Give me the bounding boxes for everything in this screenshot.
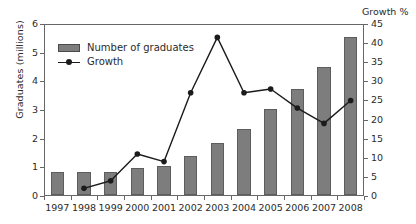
y-axis-right-tick — [364, 81, 368, 82]
y-axis-right-tick-label: 20 — [371, 115, 383, 125]
y-axis-right-tick — [364, 24, 368, 25]
x-axis-tick-label: 2007 — [312, 203, 336, 213]
y-axis-right-tick — [364, 100, 368, 101]
y-axis-left-tick-label: 6 — [32, 19, 38, 29]
y-axis-right-tick-label: 0 — [371, 191, 377, 201]
x-axis-tick-label: 2006 — [285, 203, 309, 213]
growth-data-point — [268, 86, 274, 92]
y-axis-left-tick-label: 2 — [32, 134, 38, 144]
growth-data-point — [295, 105, 301, 111]
y-axis-right-tick — [364, 62, 368, 63]
x-axis-tick — [337, 196, 338, 200]
y-axis-left-tick-label: 4 — [32, 77, 38, 87]
y-axis-right-tick-label: 35 — [371, 57, 383, 67]
growth-data-point — [161, 159, 167, 165]
x-axis-tick — [204, 196, 205, 200]
growth-data-point — [321, 121, 327, 127]
y-axis-right-tick — [364, 158, 368, 159]
x-axis-tick — [177, 196, 178, 200]
y-axis-left-tick-label: 1 — [32, 163, 38, 173]
x-axis-tick — [311, 196, 312, 200]
y-axis-right-tick-label: 45 — [371, 19, 383, 29]
y-axis-right-tick-label: 15 — [371, 134, 383, 144]
legend-item-graduates: Number of graduates — [58, 41, 194, 55]
y-axis-right-tick-label: 30 — [371, 77, 383, 87]
plot-area: 0123456 051015202530354045 1997199819992… — [44, 24, 364, 196]
bar-swatch-icon — [58, 44, 80, 52]
y-axis-left-title: Graduates (millions) — [14, 0, 25, 145]
y-axis-right-tick-label: 25 — [371, 96, 383, 106]
y-axis-left-tick-label: 0 — [32, 191, 38, 201]
x-axis-tick-label: 1997 — [45, 203, 69, 213]
x-axis-tick-label: 2003 — [205, 203, 229, 213]
y-axis-right-tick — [364, 43, 368, 44]
x-axis-tick — [124, 196, 125, 200]
x-axis-tick — [44, 196, 45, 200]
line-marker-icon — [58, 58, 80, 66]
growth-data-point — [81, 186, 87, 192]
growth-data-point — [108, 178, 114, 184]
legend-item-growth: Growth — [58, 55, 194, 69]
x-axis-tick-label: 1998 — [72, 203, 96, 213]
x-axis-tick — [364, 196, 365, 200]
x-axis-tick-label: 2004 — [232, 203, 256, 213]
y-axis-right-tick-label: 10 — [371, 153, 383, 163]
growth-data-point — [215, 35, 221, 41]
growth-data-point — [241, 90, 247, 96]
y-axis-left-tick-label: 3 — [32, 105, 38, 115]
x-axis-tick — [97, 196, 98, 200]
x-axis-tick-label: 2001 — [152, 203, 176, 213]
y-axis-right-title: Growth % — [362, 6, 408, 17]
y-axis-left-tick-label: 5 — [32, 48, 38, 58]
x-axis-tick — [71, 196, 72, 200]
x-axis-tick-label: 1999 — [99, 203, 123, 213]
legend-label-growth: Growth — [87, 55, 123, 69]
growth-data-point — [135, 151, 141, 157]
x-axis-tick — [257, 196, 258, 200]
chart-legend: Number of graduates Growth — [58, 41, 194, 69]
x-axis-tick-label: 2008 — [339, 203, 363, 213]
chart-container: Graduates (millions) Growth % 0123456 05… — [0, 0, 416, 224]
x-axis-tick-label: 2002 — [179, 203, 203, 213]
legend-label-graduates: Number of graduates — [87, 41, 194, 55]
growth-data-point — [348, 98, 354, 104]
y-axis-right-tick — [364, 139, 368, 140]
growth-data-point — [188, 90, 194, 96]
x-axis-tick — [284, 196, 285, 200]
y-axis-right-tick — [364, 177, 368, 178]
x-axis-tick — [151, 196, 152, 200]
y-axis-right-tick-label: 5 — [371, 172, 377, 182]
x-axis-tick-label: 2005 — [259, 203, 283, 213]
x-axis-tick — [231, 196, 232, 200]
x-axis-tick-label: 2000 — [125, 203, 149, 213]
y-axis-right-tick-label: 40 — [371, 38, 383, 48]
y-axis-right-tick — [364, 120, 368, 121]
